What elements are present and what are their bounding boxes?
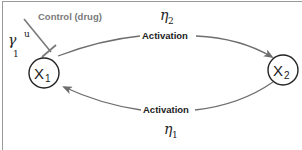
- edge-x1-to-x2-rate-subscript: 2: [168, 16, 174, 26]
- control-rate-superscript: u: [24, 29, 30, 39]
- control-rate-subscript: 1: [13, 49, 19, 59]
- node-x1-label: X: [34, 65, 44, 82]
- edge-x1-to-x2-tail: [196, 36, 272, 57]
- edge-x2-to-x1-tail: [195, 82, 273, 110]
- control-rate-symbol: γ: [8, 32, 17, 48]
- feedback-diagram: Control (drug) γ u 1 Activation η 2 Acti…: [0, 0, 302, 150]
- node-x2-label: X: [273, 62, 283, 79]
- control-label: Control (drug): [38, 11, 102, 22]
- edge-x2-to-x1: [64, 87, 141, 110]
- control-inhibition-bar: [42, 45, 56, 57]
- edge-x2-to-x1-rate-subscript: 1: [172, 130, 178, 140]
- node-x2: X 2: [268, 55, 298, 85]
- node-x2-subscript: 2: [284, 70, 290, 81]
- edge-x2-to-x1-label: Activation: [143, 104, 189, 115]
- node-x1-subscript: 1: [45, 73, 51, 84]
- edge-x1-to-x2-label: Activation: [142, 30, 188, 41]
- edge-x1-to-x2: [58, 36, 140, 56]
- node-x1: X 1: [29, 58, 59, 88]
